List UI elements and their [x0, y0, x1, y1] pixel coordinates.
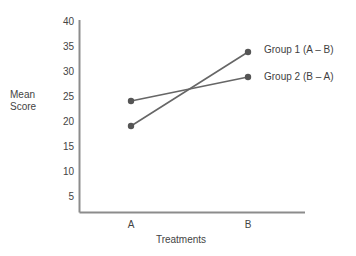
data-point-group-1-b [245, 49, 251, 55]
data-point-group-2-a [128, 98, 134, 104]
plot-area [0, 0, 356, 256]
x-axis-title: Treatments [126, 234, 236, 245]
series-line-group-2 [131, 77, 248, 101]
data-point-group-2-b [245, 74, 251, 80]
x-tick-label-b: B [233, 219, 263, 231]
line-chart: Mean Score 40 35 30 25 20 15 10 5 A B Tr… [0, 0, 356, 256]
x-tick-label-a: A [116, 219, 146, 231]
data-point-group-1-a [128, 123, 134, 129]
legend-label-group-1: Group 1 (A – B) [264, 44, 333, 56]
legend-label-group-2: Group 2 (B – A) [264, 71, 333, 83]
